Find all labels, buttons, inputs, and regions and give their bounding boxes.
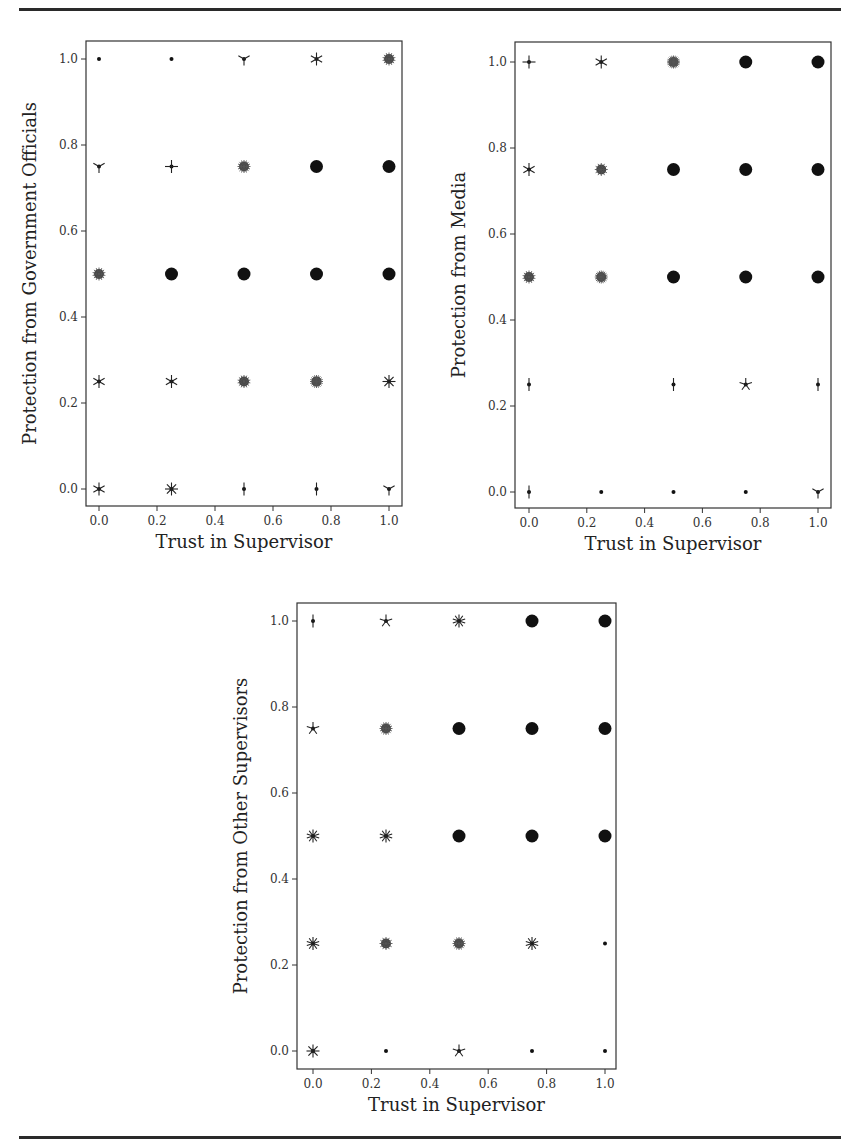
plot-media: Protection from Media Trust in Superviso… [448,42,831,554]
sunflower-marker [93,268,106,281]
sunflower-marker [242,483,246,496]
y-tick-label: 0.2 [59,396,78,410]
x-tick-label: 0.8 [751,516,770,530]
x-tick-label: 0.2 [362,1077,381,1091]
y-tick-label: 1.0 [59,52,78,66]
sunflower-marker [599,615,612,628]
x-tick-label: 1.0 [595,1077,614,1091]
sunflower-marker [739,271,752,284]
sunflower-marker [93,163,104,173]
y-tick-label: 0.8 [270,700,289,714]
sunflower-marker [383,160,396,173]
sunflower-marker [380,830,392,843]
x-tick-label: 0.4 [205,514,224,528]
sunflower-marker [530,1049,534,1053]
y-tick-label: 0.6 [59,224,78,238]
y-tick-label: 0.0 [488,485,507,499]
sunflower-marker [812,271,825,284]
x-tick-label: 0.0 [519,516,538,530]
y-axis-label: Protection from Government Officials [19,102,40,445]
sunflower-marker [812,489,823,499]
x-tick-label: 0.2 [577,516,596,530]
sunflower-marker [526,937,538,950]
sunflower-marker [383,486,394,496]
y-tick-label: 0.8 [59,138,78,152]
sunflower-marker [595,271,608,284]
sunflower-marker [383,268,396,281]
y-tick-label: 0.2 [270,958,289,972]
y-tick-label: 0.2 [488,399,507,413]
sunflower-marker [739,163,752,176]
sunflower-marker [238,375,251,388]
y-tick-label: 0.6 [488,227,507,241]
sunflower-marker [170,57,174,61]
sunflower-marker [307,830,319,843]
sunflower-marker [238,268,251,281]
sunflower-marker [453,722,466,735]
sunflower-marker [812,56,825,69]
y-tick-label: 0.4 [488,313,507,327]
sunflower-marker [380,722,393,735]
sunflower-marker [97,57,101,61]
sunflower-marker [307,722,319,734]
sunflower-marker [93,483,104,496]
x-axis-label: Trust in Supervisor [156,531,333,552]
x-axis-label: Trust in Supervisor [368,1094,545,1115]
sunflower-marker [311,53,322,66]
sunflower-marker [523,271,536,284]
sunflower-marker [599,490,603,494]
sunflower-marker [527,486,531,499]
sunflower-marker [453,830,466,843]
sunflower-marker [315,483,319,496]
x-tick-label: 1.0 [808,516,827,530]
y-tick-label: 0.4 [270,872,289,886]
sunflower-marker [383,375,396,388]
sunflower-marker [310,160,323,173]
x-tick-label: 0.6 [693,516,712,530]
sunflower-marker [310,268,323,281]
sunflower-marker [311,615,315,628]
sunflower-marker [526,722,539,735]
sunflower-marker [523,56,536,69]
y-tick-label: 0.0 [59,482,78,496]
sunflower-marker [672,490,676,494]
plot-government-officials: Protection from Government Officials Tru… [19,41,402,552]
sunflower-marker [453,1045,465,1057]
sunflower-marker [599,722,612,735]
sunflower-marker [744,490,748,494]
x-tick-label: 0.6 [479,1077,498,1091]
sunflower-marker [310,375,323,388]
sunflower-marker [453,937,466,950]
x-tick-label: 0.8 [537,1077,556,1091]
sunflower-marker [165,160,178,173]
sunflower-plot-figure: Protection from Government Officials Tru… [0,0,857,1147]
sunflower-marker [238,56,249,66]
y-tick-label: 0.8 [488,141,507,155]
sunflower-marker [527,378,531,391]
sunflower-marker [667,56,680,69]
y-axis-label: Protection from Media [448,171,469,378]
sunflower-marker [453,615,465,628]
sunflower-marker [595,163,608,176]
x-axis-label: Trust in Supervisor [585,533,762,554]
sunflower-marker [596,56,607,69]
sunflower-marker [93,375,104,388]
sunflower-marker [380,937,393,950]
plot-other-supervisors: Protection from Other Supervisors Trust … [230,603,616,1115]
sunflower-marker [812,163,825,176]
sunflower-marker [740,378,752,390]
x-tick-label: 0.4 [420,1077,439,1091]
sunflower-marker [166,375,177,388]
sunflower-marker [307,1045,320,1058]
sunflower-marker [165,268,178,281]
sunflower-marker [816,378,820,391]
y-tick-label: 1.0 [488,55,507,69]
y-tick-label: 0.0 [270,1044,289,1058]
sunflower-marker [380,615,392,627]
y-axis-label: Protection from Other Supervisors [230,678,251,995]
sunflower-marker [672,378,676,391]
sunflower-marker [667,271,680,284]
y-tick-label: 0.4 [59,310,78,324]
x-tick-label: 0.6 [263,514,282,528]
sunflower-marker [384,1049,388,1053]
